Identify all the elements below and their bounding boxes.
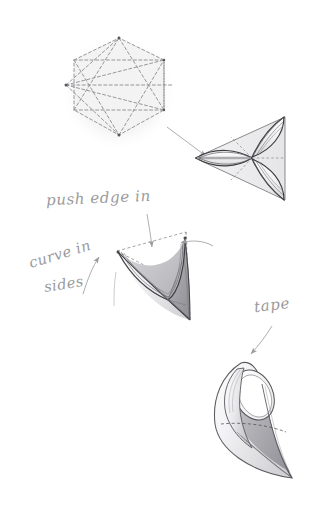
figure-folded-triangle: [195, 117, 285, 200]
arrow-curve-in-left: [83, 257, 99, 294]
figure-curved-saddle: [117, 232, 191, 320]
arrow-tape-down: [251, 326, 272, 354]
instruction-diagram: push edge in curve in sides tape: [0, 0, 312, 530]
figure-hexagon-template: [61, 35, 177, 151]
leader-curve-in: [114, 272, 116, 306]
arrow-hex-to-triangle: [167, 127, 206, 156]
figure-taped-teardrop: [214, 362, 292, 478]
